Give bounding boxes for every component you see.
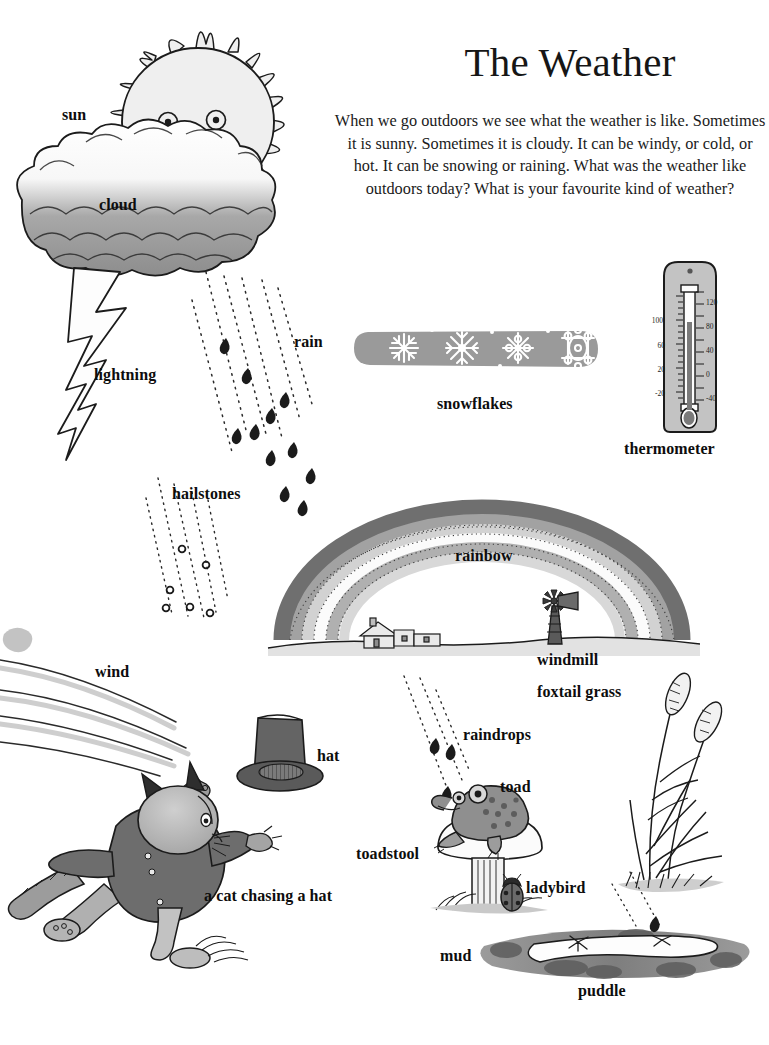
label-lightning: lightning (94, 366, 156, 384)
label-hailstones: hailstones (172, 485, 241, 503)
svg-text:-20: -20 (655, 389, 665, 398)
label-raindrops: raindrops (463, 726, 531, 744)
svg-text:-40: -40 (706, 394, 716, 403)
weather-picture-page: The Weather When we go outdoors we see w… (0, 0, 769, 1045)
svg-text:40: 40 (706, 346, 714, 355)
wind-illustration (0, 628, 188, 776)
intro-paragraph: When we go outdoors we see what the weat… (333, 110, 767, 200)
label-windmill: windmill (537, 651, 598, 669)
thermometer-illustration: 100 60 20 -20 120 80 40 0 -40 (652, 262, 718, 432)
rain-illustration (192, 272, 316, 516)
snowflakes-illustration (354, 327, 598, 372)
svg-text:60: 60 (658, 341, 666, 350)
svg-text:80: 80 (706, 322, 714, 331)
label-cloud: cloud (99, 196, 137, 214)
label-hat: hat (317, 747, 340, 765)
svg-text:20: 20 (658, 365, 666, 374)
label-rain: rain (294, 333, 323, 351)
label-wind: wind (95, 663, 129, 681)
cat-illustration (8, 762, 282, 968)
svg-text:0: 0 (706, 370, 710, 379)
label-toadstool: toadstool (356, 845, 419, 863)
lightning-illustration (58, 268, 126, 460)
svg-text:100: 100 (652, 316, 664, 325)
label-mud: mud (440, 947, 471, 965)
label-toad: toad (500, 778, 531, 796)
cloud-illustration (17, 119, 275, 275)
rainbow-illustration (268, 508, 700, 656)
hat-illustration (237, 715, 323, 791)
svg-text:120: 120 (706, 298, 718, 307)
label-puddle: puddle (578, 982, 626, 1000)
foxtail-grass-illustration (618, 670, 727, 892)
label-thermometer: thermometer (624, 440, 715, 458)
label-sun: sun (62, 106, 86, 124)
label-foxtail-grass: foxtail grass (537, 683, 621, 701)
label-rainbow: rainbow (455, 547, 513, 565)
toad-illustration (432, 785, 529, 860)
label-snowflakes: snowflakes (437, 395, 513, 413)
ladybird-illustration (501, 874, 523, 911)
raindrops-illustration (404, 676, 470, 802)
puddle-illustration (480, 872, 749, 979)
page-title: The Weather (380, 38, 760, 86)
sun-illustration (109, 32, 284, 207)
toadstool-illustration (430, 816, 548, 914)
label-cat-chasing-hat: a cat chasing a hat (204, 887, 332, 905)
label-ladybird: ladybird (526, 879, 586, 897)
